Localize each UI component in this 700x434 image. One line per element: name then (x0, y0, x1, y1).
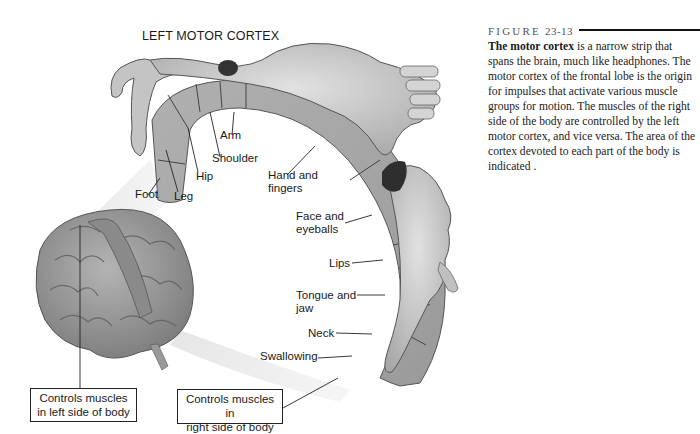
brain (36, 209, 193, 370)
caption-header: FIGURE23-13 (488, 24, 700, 38)
figure-title: LEFT MOTOR CORTEX (142, 29, 279, 43)
label-arm: Arm (220, 129, 241, 142)
callout-left-line2: in left side of body (37, 405, 130, 419)
label-hand-fingers-line2: fingers (268, 182, 318, 195)
label-swallowing: Swallowing (260, 350, 318, 363)
label-neck: Neck (308, 327, 334, 340)
label-foot: Foot (135, 188, 158, 201)
label-shoulder: Shoulder (212, 152, 258, 165)
caption-figure-label: FIGURE23-13 (488, 25, 573, 37)
caption-figure-number: 23-13 (545, 25, 573, 37)
label-face-eyeballs-line1: Face and (296, 210, 344, 223)
label-face-eyeballs: Face and eyeballs (296, 210, 344, 236)
label-face-eyeballs-line2: eyeballs (296, 223, 344, 236)
caption-text: is a narrow strip that spans the brain, … (488, 40, 695, 173)
label-tongue-jaw: Tongue and jaw (296, 289, 356, 315)
figure-caption: FIGURE23-13 The motor cortex is a narrow… (488, 24, 700, 174)
label-tongue-jaw-line2: jaw (296, 302, 356, 315)
label-hand-fingers: Hand and fingers (268, 169, 318, 195)
callout-left-side: Controls muscles in left side of body (30, 388, 137, 422)
label-hand-fingers-line1: Hand and (268, 169, 318, 182)
callout-right-line2: right side of body (184, 420, 276, 434)
callout-right-line1: Controls muscles in (184, 392, 276, 420)
label-tongue-jaw-line1: Tongue and (296, 289, 356, 302)
caption-label-text: FIGURE (488, 25, 541, 37)
label-hip: Hip (196, 170, 213, 183)
callout-right-side: Controls muscles in right side of body (177, 389, 283, 424)
label-leg: Leg (174, 190, 193, 203)
caption-bold-lead: The motor cortex (488, 40, 574, 53)
caption-rule (579, 29, 700, 31)
label-lips: Lips (329, 257, 350, 270)
caption-body: The motor cortex is a narrow strip that … (488, 39, 700, 174)
callout-left-line1: Controls muscles (37, 391, 130, 405)
